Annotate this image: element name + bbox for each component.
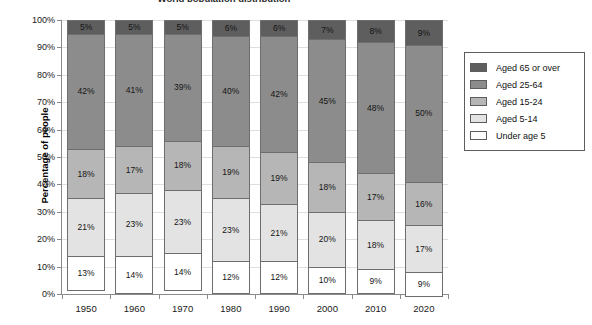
bar-segment[interactable]: 23% xyxy=(115,193,153,256)
bar-segment-label: 9% xyxy=(418,29,430,38)
bar-segment[interactable]: 42% xyxy=(67,34,105,149)
bar-segment[interactable]: 19% xyxy=(212,146,250,198)
bar-segment-label: 21% xyxy=(271,229,288,238)
bar-segment[interactable]: 40% xyxy=(212,36,250,146)
bar-segment-label: 21% xyxy=(78,223,95,232)
bar-segment[interactable]: 21% xyxy=(67,198,105,256)
x-tick-mark xyxy=(303,294,304,299)
bar-segment[interactable]: 5% xyxy=(67,20,105,34)
bar-segment[interactable]: 50% xyxy=(405,45,443,182)
bar-segment[interactable]: 17% xyxy=(115,146,153,193)
x-tick-label: 1960 xyxy=(124,303,145,314)
bar-segment[interactable]: 10% xyxy=(308,267,346,294)
chart-title: World population distribution xyxy=(0,0,448,2)
legend-item[interactable]: Under age 5 xyxy=(470,127,579,144)
bar-segment[interactable]: 19% xyxy=(260,152,298,204)
bar-segment-label: 5% xyxy=(128,23,140,32)
bar-segment-label: 20% xyxy=(319,235,336,244)
x-tick-label: 1970 xyxy=(172,303,193,314)
bar-segment[interactable]: 18% xyxy=(67,149,105,198)
legend-item[interactable]: Aged 25-64 xyxy=(470,76,579,93)
bar-segment[interactable]: 6% xyxy=(212,20,250,36)
y-tick-mark xyxy=(57,239,62,240)
y-tick-label: 20% xyxy=(37,234,55,244)
bar-column[interactable]: 5%39%18%23%14% xyxy=(164,20,202,294)
bar-segment[interactable]: 23% xyxy=(212,198,250,261)
bar-segment[interactable]: 9% xyxy=(405,272,443,297)
bar-segment[interactable]: 12% xyxy=(260,261,298,294)
legend-item-label: Aged 65 or over xyxy=(496,63,560,73)
bar-segment[interactable]: 18% xyxy=(164,141,202,190)
legend-item[interactable]: Aged 5-14 xyxy=(470,110,579,127)
legend-item-label: Aged 25-64 xyxy=(496,80,543,90)
bar-segment[interactable]: 17% xyxy=(357,173,395,220)
legend-item[interactable]: Aged 65 or over xyxy=(470,59,579,76)
bar-segment[interactable]: 6% xyxy=(260,20,298,36)
bar-segment-label: 19% xyxy=(271,174,288,183)
y-tick-label: 90% xyxy=(37,42,55,52)
legend-swatch-icon xyxy=(470,97,487,106)
y-tick-label: 50% xyxy=(37,152,55,162)
bar-segment-label: 18% xyxy=(174,161,191,170)
y-tick-mark xyxy=(57,75,62,76)
bar-segment[interactable]: 21% xyxy=(260,204,298,262)
bar-segment[interactable]: 13% xyxy=(67,256,105,292)
bar-segment[interactable]: 48% xyxy=(357,42,395,174)
bar-segment[interactable]: 8% xyxy=(357,20,395,42)
legend-item[interactable]: Aged 15-24 xyxy=(470,93,579,110)
bar-column[interactable]: 7%45%18%20%10% xyxy=(308,20,346,294)
y-tick-label: 40% xyxy=(37,179,55,189)
bar-segment[interactable]: 45% xyxy=(308,39,346,162)
y-tick-mark xyxy=(57,47,62,48)
bar-segment[interactable]: 9% xyxy=(357,269,395,294)
bar-segment-label: 42% xyxy=(271,90,288,99)
bar-segment-label: 6% xyxy=(273,24,285,33)
x-tick-label: 2010 xyxy=(365,303,386,314)
x-tick-mark xyxy=(207,294,208,299)
bar-segment[interactable]: 7% xyxy=(308,20,346,39)
bar-column[interactable]: 5%42%18%21%13% xyxy=(67,20,105,294)
bar-segment-label: 40% xyxy=(222,87,239,96)
bar-segment-label: 42% xyxy=(78,87,95,96)
x-tick-mark xyxy=(400,294,401,299)
x-tick-mark xyxy=(352,294,353,299)
bar-segment[interactable]: 42% xyxy=(260,36,298,151)
y-tick-mark xyxy=(57,157,62,158)
bar-segment[interactable]: 5% xyxy=(115,20,153,34)
bar-segment[interactable]: 14% xyxy=(164,253,202,291)
bar-segment-label: 17% xyxy=(415,245,432,254)
bar-segment[interactable]: 17% xyxy=(405,225,443,272)
bar-column[interactable]: 5%41%17%23%14% xyxy=(115,20,153,294)
bar-column[interactable]: 8%48%17%18%9% xyxy=(357,20,395,294)
bar-segment[interactable]: 9% xyxy=(405,20,443,45)
bar-segment[interactable]: 14% xyxy=(115,256,153,294)
bar-segment[interactable]: 23% xyxy=(164,190,202,253)
bar-segment-label: 13% xyxy=(78,269,95,278)
bar-segment[interactable]: 12% xyxy=(212,261,250,294)
legend: Aged 65 or overAged 25-64Aged 15-24Aged … xyxy=(464,52,585,151)
bar-segment[interactable]: 20% xyxy=(308,212,346,267)
y-tick-label: 10% xyxy=(37,262,55,272)
bar-segment[interactable]: 18% xyxy=(308,162,346,211)
bar-segment-label: 5% xyxy=(80,23,92,32)
bar-segment-label: 23% xyxy=(126,220,143,229)
x-tick-label: 2020 xyxy=(413,303,434,314)
bar-segment-label: 17% xyxy=(367,193,384,202)
bar-segment-label: 39% xyxy=(174,83,191,92)
bar-segment-label: 17% xyxy=(126,166,143,175)
x-tick-mark xyxy=(255,294,256,299)
bar-segment-label: 45% xyxy=(319,97,336,106)
bar-segment[interactable]: 18% xyxy=(357,220,395,269)
legend-item-label: Under age 5 xyxy=(496,131,546,141)
bar-segment[interactable]: 39% xyxy=(164,34,202,141)
bar-column[interactable]: 6%42%19%21%12% xyxy=(260,20,298,294)
bar-column[interactable]: 9%50%16%17%9% xyxy=(405,20,443,294)
bar-segment-label: 5% xyxy=(176,23,188,32)
bar-segment[interactable]: 41% xyxy=(115,34,153,146)
bar-segment[interactable]: 5% xyxy=(164,20,202,34)
bar-segment[interactable]: 16% xyxy=(405,182,443,226)
bar-segment-label: 23% xyxy=(174,218,191,227)
bar-column[interactable]: 6%40%19%23%12% xyxy=(212,20,250,294)
bar-segment-label: 8% xyxy=(369,27,381,36)
legend-item-label: Aged 15-24 xyxy=(496,97,543,107)
